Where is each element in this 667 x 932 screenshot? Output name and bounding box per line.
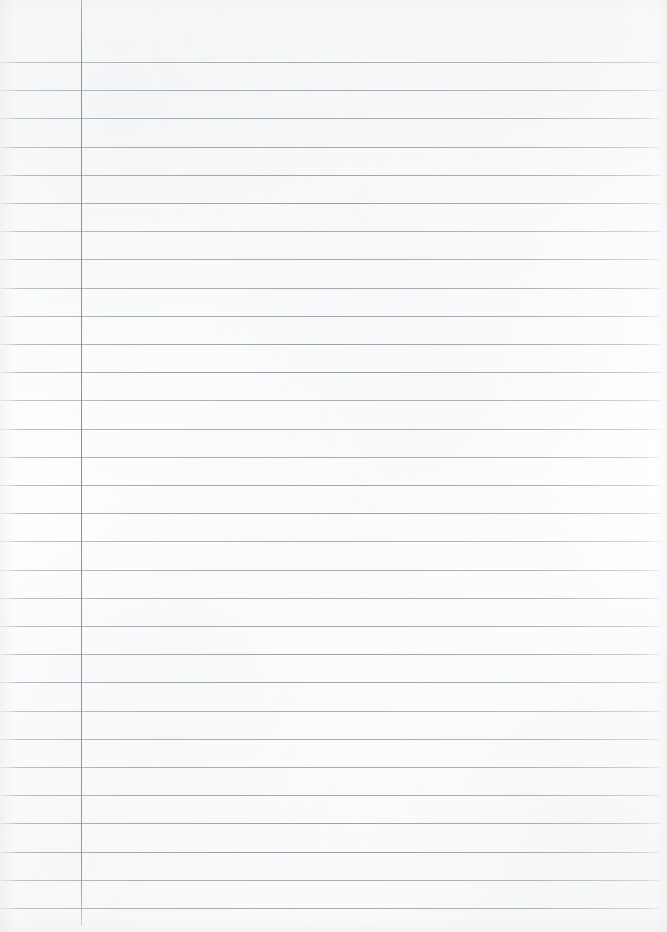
rule-line — [0, 682, 661, 683]
rule-line — [0, 711, 661, 712]
rule-line — [0, 90, 661, 91]
notebook-page — [0, 0, 667, 932]
rule-line — [0, 316, 661, 317]
rule-line — [0, 823, 661, 824]
rule-line — [0, 880, 661, 881]
rule-line — [0, 231, 661, 232]
rule-line — [0, 908, 661, 909]
rule-line — [0, 118, 661, 119]
rule-line — [0, 288, 661, 289]
rule-line — [0, 175, 661, 176]
rule-line — [0, 795, 661, 796]
rule-line — [0, 344, 661, 345]
paper-grain-texture — [0, 0, 667, 932]
rule-line — [0, 147, 661, 148]
rule-line — [0, 541, 661, 542]
rule-line — [0, 429, 661, 430]
rule-line — [0, 739, 661, 740]
rule-line — [0, 203, 661, 204]
rule-line — [0, 852, 661, 853]
rule-line — [0, 570, 661, 571]
rule-line — [0, 485, 661, 486]
rule-line — [0, 259, 661, 260]
rule-line — [0, 767, 661, 768]
rule-line — [0, 598, 661, 599]
rule-line — [0, 626, 661, 627]
page-vignette — [0, 0, 667, 932]
margin-rule-line — [81, 0, 82, 926]
rule-line — [0, 372, 661, 373]
rule-line — [0, 457, 661, 458]
rule-line — [0, 62, 661, 63]
rule-line — [0, 513, 661, 514]
rule-line — [0, 400, 661, 401]
rule-line — [0, 654, 661, 655]
